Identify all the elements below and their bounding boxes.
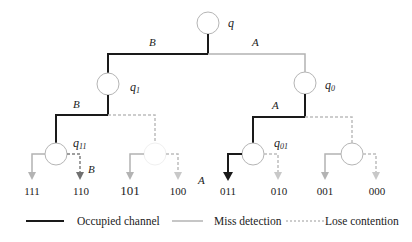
arrow-001-icon [321,172,329,180]
arrow-101-icon [126,172,134,180]
node-label-q: q [228,16,234,30]
edge-q1-to-q10 [108,115,155,143]
node-q01 [242,143,264,165]
edge-label-q1-left: B [73,98,80,110]
arrow-111-icon [28,172,36,180]
legend-label-occupied: Occupied channel [77,215,160,228]
leaf-label: 110 [73,185,90,197]
edge-q00-to-000 [363,154,376,173]
legend-label-miss: Miss detection [214,215,282,227]
edge-q01-to-010 [264,154,278,173]
arrow-010-icon [274,172,282,180]
node-q11 [45,143,67,165]
arrow-110-icon [76,172,84,180]
edge-q00-to-001 [325,154,341,173]
edge-label-q10-right: A [197,174,205,186]
leaf-label: 111 [24,185,40,197]
edge-q10-to-101 [130,154,144,173]
edge-label-root-right: A [251,36,259,48]
leaf-label: 101 [120,183,140,198]
edge-label-q11-right: B [88,163,95,175]
arrow-000-icon [372,172,380,180]
leaf-label: 010 [271,185,288,197]
node-q00 [341,143,363,165]
node-q0 [294,72,316,94]
arrow-011-icon [223,172,233,181]
edge-label-q0-left: A [271,99,279,111]
leaf-label: 100 [170,185,187,197]
edge-q0-to-q00 [305,117,352,143]
node-label-q01: q01 [274,136,288,151]
node-q10 [144,143,166,165]
edge-q1-to-q11 [56,115,108,143]
edge-q11-to-110 [67,154,80,173]
arrow-100-icon [174,172,182,180]
leaf-label: 000 [369,185,386,197]
edge-q01-to-011 [228,154,242,173]
node-q1 [97,73,119,95]
node-label-q1: q1 [130,80,140,95]
leaf-label: 011 [220,185,236,197]
node-label-q0: q0 [325,78,335,93]
edge-q10-to-100 [166,154,178,173]
edge-q11-to-111 [32,154,45,173]
leaf-label: 001 [317,185,334,197]
edge-label-root-left: B [149,36,156,48]
edge-root-to-q0 [208,54,305,72]
legend-label-lose: Lose contention [325,215,399,227]
legend: Occupied channel Miss detection Lose con… [26,215,399,228]
edge-root-to-q1 [108,54,208,73]
node-q-root [197,12,219,34]
node-label-q11: q11 [73,136,86,151]
channel-access-tree-diagram: q B A q1 B q0 A q11 B A q01 [0,0,412,242]
